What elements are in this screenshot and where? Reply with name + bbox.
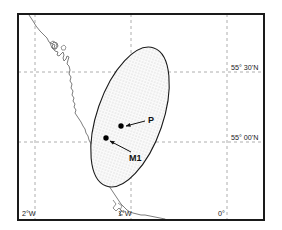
location-map-figure: P M1 55° 30'N 55° 00'N 2°W 1°W 0° bbox=[0, 0, 282, 230]
map-canvas: P M1 55° 30'N 55° 00'N 2°W 1°W 0° bbox=[0, 0, 282, 230]
marker-m1-dot bbox=[103, 135, 108, 140]
marker-m1-label: M1 bbox=[129, 153, 142, 163]
axis-label-lon-2w: 2°W bbox=[22, 209, 36, 218]
marker-p-label: P bbox=[148, 115, 154, 125]
marker-p-dot bbox=[118, 123, 123, 128]
axis-label-lon-0: 0° bbox=[218, 209, 225, 218]
axis-label-lon-1w: 1°W bbox=[118, 209, 132, 218]
axis-label-lat-55-00: 55° 00'N bbox=[231, 133, 258, 142]
axis-label-lat-55-30: 55° 30'N bbox=[231, 63, 258, 72]
